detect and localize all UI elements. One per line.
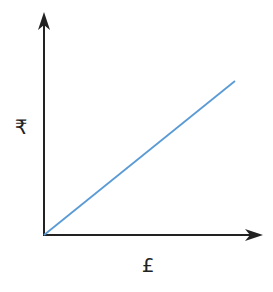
data-line [44, 81, 235, 235]
x-axis-label: £ [142, 255, 155, 275]
y-axis-label: ₹ [15, 117, 28, 137]
chart [0, 0, 273, 292]
